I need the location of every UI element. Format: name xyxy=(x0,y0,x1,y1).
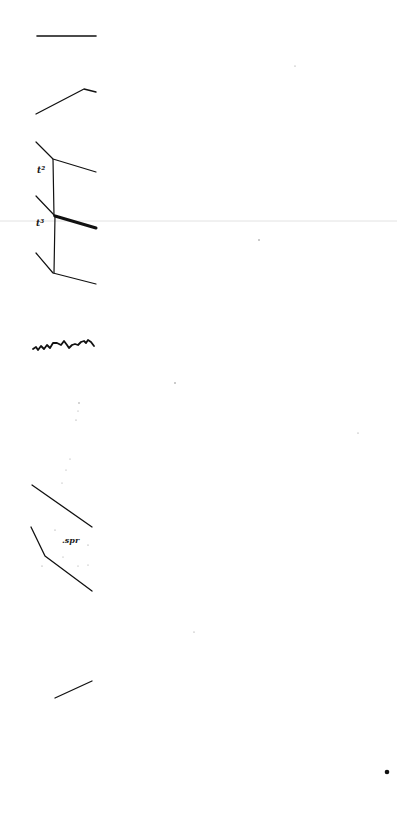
sketch-canvas xyxy=(0,0,397,819)
wavy-scribble xyxy=(33,340,94,350)
middle-label: t³ xyxy=(36,219,44,228)
middle-rib xyxy=(36,196,55,216)
ribbed-structure xyxy=(36,142,96,284)
bent-stroke xyxy=(36,89,96,114)
faint-specks xyxy=(41,65,358,632)
ink-dot xyxy=(385,770,390,775)
vertical-spine-lower xyxy=(54,216,55,273)
lower-rib xyxy=(36,253,96,284)
middle-rib-heavy xyxy=(55,216,96,228)
lower-label: .spr xyxy=(62,536,79,544)
upper-label: t² xyxy=(37,166,45,175)
rising-stroke xyxy=(55,681,92,698)
vertical-spine-upper xyxy=(53,159,54,216)
upper-diagonal xyxy=(32,485,92,527)
